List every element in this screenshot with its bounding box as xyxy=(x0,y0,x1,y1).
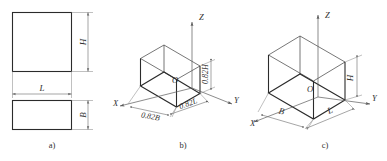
origin-label-b: O xyxy=(172,75,178,85)
axis-label-z-b: Z xyxy=(199,12,204,22)
dim-label-breadth-b: 0.82B xyxy=(140,110,160,122)
axis-label-y-b: Y xyxy=(234,95,240,105)
panel-c-isometric: Z Y X O H L B c) xyxy=(249,10,378,150)
caption-c: c) xyxy=(322,140,329,150)
ext-line-b-l-end xyxy=(200,94,209,104)
axis-label-z-c: Z xyxy=(325,10,330,20)
origin-label-c: O xyxy=(307,84,313,94)
top-view-rect xyxy=(13,101,72,130)
dim-label-height-b: 0.82H xyxy=(201,63,210,84)
axis-line-y-b xyxy=(192,88,232,104)
box-c-top-face xyxy=(269,36,346,81)
dim-label-breadth-c: B xyxy=(278,106,286,117)
box-b-top-face xyxy=(141,45,201,80)
panel-b-isometric: Z Y X O 0.82H 0.82L 0.82B xyxy=(112,12,240,150)
axis-label-y-c: Y xyxy=(372,93,378,103)
ext-line-c-h-top xyxy=(345,55,362,62)
dim-label-height-c: H xyxy=(345,74,355,82)
dim-line-breadth-c xyxy=(262,115,303,127)
caption-b: b) xyxy=(179,140,186,150)
ext-line-c-h-bottom xyxy=(345,95,362,100)
axis-line-x-c xyxy=(254,97,318,122)
axis-line-y-c xyxy=(318,97,370,104)
dim-label-height-a: H xyxy=(78,38,88,46)
ext-line-c-b-end xyxy=(305,119,314,129)
dim-label-length-a: L xyxy=(38,83,44,93)
dim-label-breadth-a: B xyxy=(78,112,88,118)
caption-a: a) xyxy=(49,140,56,150)
panel-a-orthographic: H L B a) xyxy=(13,13,94,151)
dim-label-length-b: 0.82L xyxy=(178,96,199,111)
ext-line-b-b-end xyxy=(170,107,177,117)
dim-label-length-c: L xyxy=(325,105,334,117)
figure-canvas: H L B a) xyxy=(0,0,387,161)
ext-line-c-l-start xyxy=(307,119,314,130)
ext-line-c-b-start xyxy=(258,93,269,112)
ext-line-b-h-bottom xyxy=(200,87,215,94)
axis-label-x-b: X xyxy=(112,98,119,108)
technical-drawing-figure: H L B a) xyxy=(0,0,387,161)
front-view-rect xyxy=(13,13,72,72)
axis-label-x-c: X xyxy=(249,118,256,128)
